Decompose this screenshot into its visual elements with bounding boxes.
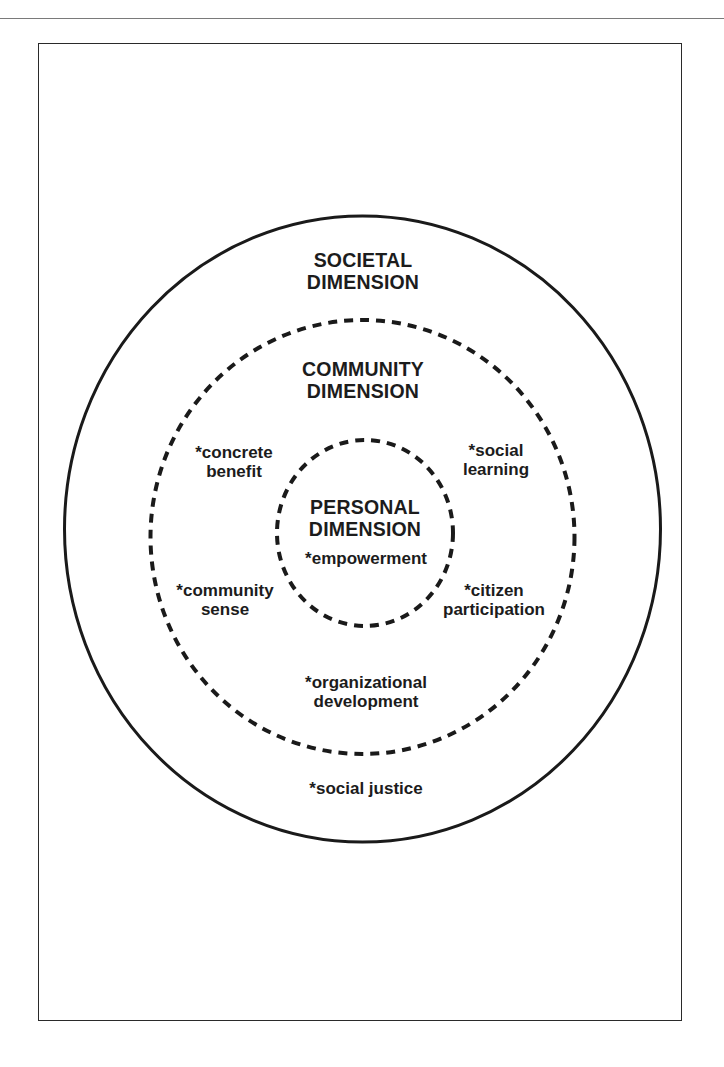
item-line: *community [176,581,273,600]
personal-title-line-1: PERSONAL [309,497,421,519]
societal-dimension-title: SOCIETAL DIMENSION [307,250,419,294]
item-concrete-benefit: *concrete benefit [195,443,272,481]
item-line: *social justice [309,779,422,798]
item-line: participation [443,600,545,619]
personal-dimension-title: PERSONAL DIMENSION [309,497,421,541]
item-line: *organizational [305,673,427,692]
item-line: *citizen [443,581,545,600]
societal-title-line-2: DIMENSION [307,272,419,294]
item-line: benefit [195,462,272,481]
community-title-line-1: COMMUNITY [302,359,424,381]
item-community-sense: *community sense [176,581,273,619]
personal-title-line-2: DIMENSION [309,519,421,541]
item-line: sense [176,600,273,619]
item-line: development [305,692,427,711]
item-organizational-development: *organizational development [305,673,427,711]
societal-title-line-1: SOCIETAL [307,250,419,272]
community-title-line-2: DIMENSION [302,381,424,403]
item-citizen-participation: *citizen participation [443,581,545,619]
item-social-justice: *social justice [309,779,422,798]
item-empowerment: *empowerment [305,549,427,568]
item-line: *social [463,441,529,460]
item-line: learning [463,460,529,479]
community-dimension-title: COMMUNITY DIMENSION [302,359,424,403]
item-social-learning: *social learning [463,441,529,479]
item-line: *empowerment [305,549,427,568]
item-line: *concrete [195,443,272,462]
